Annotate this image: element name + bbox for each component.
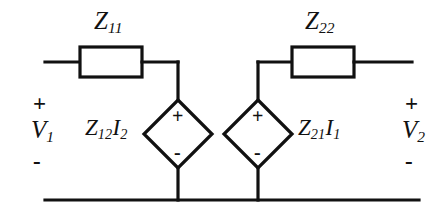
circuit-diagram: Z11 Z22 Z12I2 Z21I1 + V1 - + V2 - + - + … (0, 0, 439, 212)
label-impedance-z11: Z11 (94, 8, 123, 36)
port1-plus-sign: + (33, 92, 46, 115)
impedance-box-z11 (80, 47, 142, 77)
source-right-plus-sign: + (252, 106, 263, 126)
port2-minus-sign: - (405, 150, 413, 173)
source-left-plus-sign: + (172, 106, 183, 126)
port1-minus-sign: - (33, 150, 41, 173)
source-right-minus-sign: - (254, 142, 261, 162)
port2-plus-sign: + (405, 92, 418, 115)
source-left-minus-sign: - (174, 142, 181, 162)
label-voltage-v1: V1 (31, 117, 54, 145)
label-impedance-z22: Z22 (305, 8, 335, 36)
label-voltage-v2: V2 (402, 117, 425, 145)
impedance-box-z22 (292, 47, 354, 77)
circuit-schematic-lines (0, 0, 439, 212)
label-source-right-expression: Z21I1 (298, 116, 340, 141)
label-source-left-expression: Z12I2 (85, 116, 127, 141)
